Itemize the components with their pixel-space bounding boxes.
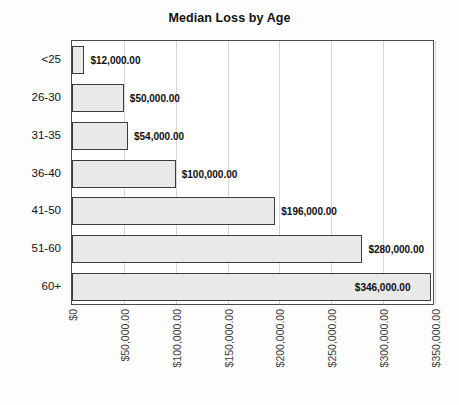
chart-title: Median Loss by Age [0,11,459,25]
bar-row: $54,000.00 [72,122,435,150]
bar-value-label: $196,000.00 [281,206,337,217]
bar-row: $12,000.00 [72,46,435,74]
bar-value-label: $12,000.00 [90,54,140,65]
plot-area: $12,000.00$50,000.00$54,000.00$100,000.0… [71,40,434,305]
bar-value-label: $50,000.00 [130,92,180,103]
gridline [435,41,436,304]
bar[interactable] [72,122,128,150]
bar-row: $100,000.00 [72,160,435,188]
category-label: 36-40 [32,167,61,179]
bars-layer: $12,000.00$50,000.00$54,000.00$100,000.0… [72,41,433,304]
bar[interactable] [72,235,362,263]
category-axis: <2526-3031-3536-4041-5051-6060+ [0,40,65,305]
bar-row: $280,000.00 [72,235,435,263]
bar-value-label: $54,000.00 [134,130,184,141]
bar-value-label: $100,000.00 [182,168,238,179]
value-tick-label: $50,000.00 [119,309,131,362]
bar[interactable] [72,197,275,225]
value-tick-label: $0 [67,309,79,321]
chart-container: Median Loss by Age <2526-3031-3536-4041-… [0,0,459,405]
bar-value-label: $346,000.00 [355,282,411,293]
value-tick-label: $100,000.00 [171,309,183,367]
category-label: 41-50 [32,204,61,216]
category-label: 26-30 [32,91,61,103]
bar[interactable] [72,46,84,74]
category-label: 31-35 [32,129,61,141]
bar-value-label: $280,000.00 [368,244,424,255]
bar-row: $346,000.00 [72,273,435,301]
bar[interactable] [72,160,176,188]
value-tick-label: $350,000.00 [430,309,442,367]
bar[interactable] [72,84,124,112]
category-label: 51-60 [32,242,61,254]
value-tick-label: $300,000.00 [378,309,390,367]
bar-row: $50,000.00 [72,84,435,112]
category-label: 60+ [41,280,61,292]
value-tick-label: $250,000.00 [326,309,338,367]
value-tick-label: $200,000.00 [274,309,286,367]
category-label: <25 [41,53,61,65]
value-tick-label: $150,000.00 [223,309,235,367]
bar-row: $196,000.00 [72,197,435,225]
